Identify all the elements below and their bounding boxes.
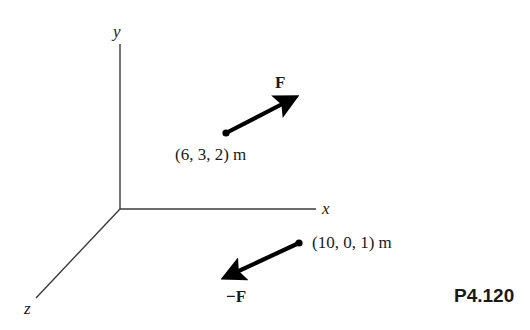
force-neg-f: −F (10, 0, 1) m [226,233,392,306]
force-neg-f-point-label: (10, 0, 1) m [312,233,392,252]
force-couple-diagram: y x z F (6, 3, 2) m −F (10, 0, 1) m P4.1… [0,0,530,330]
y-axis-label: y [111,22,121,41]
force-f-label: F [275,73,285,92]
force-f-application-point [222,129,229,136]
force-neg-f-arrow [230,243,299,275]
z-axis-label: z [23,299,31,318]
force-f-point-label: (6, 3, 2) m [175,145,246,164]
x-axis-label: x [321,199,330,218]
force-neg-f-application-point [295,239,302,246]
force-f-arrow [226,100,290,133]
z-axis [36,209,120,298]
force-neg-f-label: −F [226,287,246,306]
coordinate-axes [36,44,316,298]
force-f: F (6, 3, 2) m [175,73,290,164]
problem-number: P4.120 [454,285,514,306]
